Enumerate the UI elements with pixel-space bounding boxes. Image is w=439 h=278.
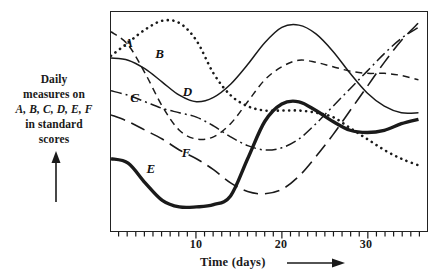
curve-label-d: D xyxy=(183,85,192,98)
y-axis-label-line-2: measures on xyxy=(2,87,106,102)
curve-label-c: C xyxy=(130,91,139,104)
curve-e xyxy=(111,101,418,207)
x-tick-label-10: 10 xyxy=(181,237,211,252)
arrow-right-icon xyxy=(287,256,347,270)
arrow-up-icon xyxy=(50,150,62,202)
x-axis-label: Time (days) xyxy=(200,255,266,270)
curve-label-f: F xyxy=(182,146,191,159)
curve-label-a: A xyxy=(124,36,133,49)
chart-figure: Daily measures on A, B, C, D, E, F in st… xyxy=(0,0,439,278)
y-axis-label-line-5: scores xyxy=(2,132,106,147)
x-tick-label-30: 30 xyxy=(351,237,381,252)
x-tick-label-20: 20 xyxy=(266,237,296,252)
curve-label-e: E xyxy=(147,162,156,175)
curve-d xyxy=(111,25,418,114)
curve-canvas xyxy=(111,12,427,231)
curve-label-b: B xyxy=(155,47,164,60)
y-axis-label: Daily measures on A, B, C, D, E, F in st… xyxy=(2,72,106,147)
plot-area: ABCDEF xyxy=(110,11,428,232)
y-axis-label-line-4: in standard xyxy=(2,117,106,132)
y-axis-label-line-3: A, B, C, D, E, F xyxy=(2,102,106,117)
y-axis-label-line-1: Daily xyxy=(2,72,106,87)
